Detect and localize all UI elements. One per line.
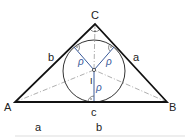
bottom-label-a: a xyxy=(35,121,42,133)
bottom-label-b: b xyxy=(96,121,102,133)
vertex-c-label: C xyxy=(91,9,99,21)
radius-label-left: ρ xyxy=(77,56,84,67)
vertex-b-label: B xyxy=(169,101,176,113)
angle-bisectors xyxy=(15,24,167,102)
side-b-label: b xyxy=(48,51,54,63)
incenter-label: I xyxy=(90,76,93,86)
triangle xyxy=(15,24,167,102)
radius-label-bottom: ρ xyxy=(95,82,102,93)
vertex-a-label: A xyxy=(4,101,12,113)
side-c-label: c xyxy=(91,106,97,118)
incircle-diagram: C A B b a c I ρ ρ ρ a b xyxy=(0,0,185,138)
radius-label-right: ρ xyxy=(105,56,112,67)
side-a-label: a xyxy=(133,51,140,63)
incenter-point xyxy=(92,68,95,71)
